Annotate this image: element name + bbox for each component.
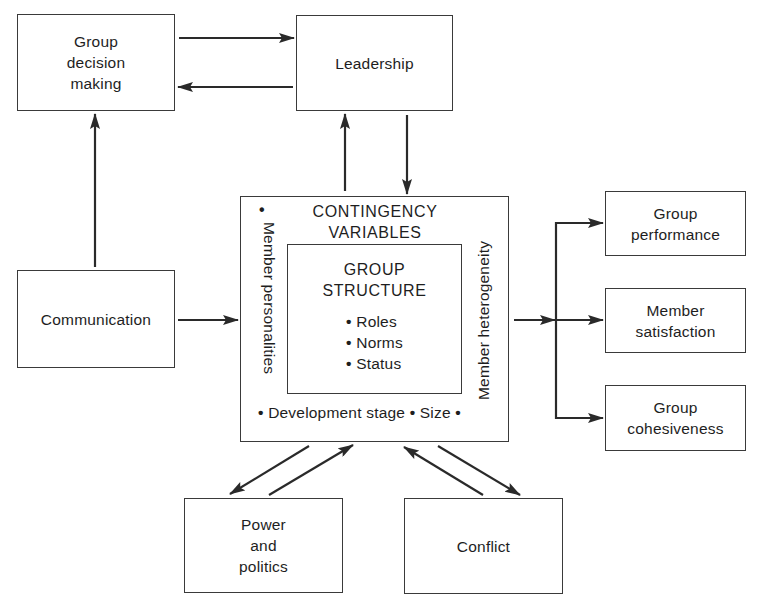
node-label: Conflict: [457, 536, 510, 557]
node-label-line: Power: [241, 514, 286, 535]
group-structure-title: GROUP STRUCTURE: [322, 259, 426, 301]
node-group-structure: GROUP STRUCTURE • Roles • Norms • Status: [287, 244, 462, 394]
node-label-line: Member: [646, 300, 704, 321]
node-communication: Communication: [17, 270, 175, 368]
node-group-cohesiveness: Group cohesiveness: [605, 385, 746, 451]
group-structure-items: • Roles • Norms • Status: [346, 311, 403, 374]
variable-label: Member personalities: [260, 222, 278, 374]
node-power-and-politics: Power and politics: [184, 498, 343, 593]
node-label-line: politics: [239, 556, 288, 577]
node-label-line: satisfaction: [636, 321, 716, 342]
item-label: Norms: [356, 334, 403, 351]
title-line: VARIABLES: [290, 222, 460, 243]
arrow-contingency-to-power: [230, 446, 309, 494]
arrow-power-to-contingency: [269, 445, 353, 495]
node-member-satisfaction: Member satisfaction: [605, 288, 746, 353]
title-line: STRUCTURE: [322, 280, 426, 301]
node-label-line: cohesiveness: [627, 418, 723, 439]
list-item-status: • Status: [346, 353, 403, 374]
node-label-line: Group: [653, 397, 697, 418]
bullet-icon: •: [346, 313, 352, 330]
node-label: Communication: [41, 309, 151, 330]
node-label-line: Group: [74, 31, 118, 52]
item-label: Status: [356, 355, 401, 372]
bottom-variables: • Development stage • Size •: [258, 404, 504, 422]
variable-size: Size: [420, 404, 451, 421]
bullet-icon: •: [346, 355, 352, 372]
title-line: CONTINGENCY: [290, 201, 460, 222]
node-group-performance: Group performance: [605, 191, 746, 256]
node-leadership: Leadership: [296, 15, 453, 111]
node-conflict: Conflict: [404, 498, 563, 594]
bullet-icon: •: [258, 404, 264, 421]
contingency-variables-title: CONTINGENCY VARIABLES: [290, 201, 460, 243]
bullet-icon: •: [259, 201, 265, 219]
list-item-norms: • Norms: [346, 332, 403, 353]
title-line: GROUP: [322, 259, 426, 280]
variable-development-stage: Development stage: [268, 404, 405, 421]
node-label-line: Group: [653, 203, 697, 224]
arrow-conflict-to-contingency: [404, 447, 483, 495]
node-group-decision-making: Group decision making: [17, 14, 175, 111]
node-label: Leadership: [335, 53, 414, 74]
arrow-contingency-to-conflict: [438, 446, 520, 495]
bullet-icon: •: [346, 334, 352, 351]
list-item-roles: • Roles: [346, 311, 403, 332]
node-label-line: decision: [67, 52, 125, 73]
variable-member-heterogeneity: Member heterogeneity: [475, 241, 493, 400]
variable-member-personalities: • Member personalities: [258, 205, 282, 395]
node-label-line: performance: [631, 224, 720, 245]
item-label: Roles: [356, 313, 397, 330]
bullet-icon: •: [410, 404, 416, 421]
bullet-icon: •: [455, 404, 461, 421]
node-label-line: making: [70, 73, 121, 94]
node-label-line: and: [250, 535, 276, 556]
